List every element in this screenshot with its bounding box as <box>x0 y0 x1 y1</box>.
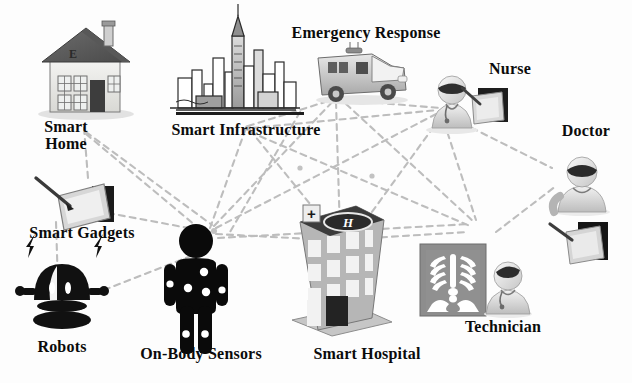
label-on-body-sensors: On-Body Sensors <box>118 345 284 362</box>
label-robots: Robots <box>10 338 114 355</box>
label-doctor: Doctor <box>540 122 632 139</box>
city-skyline-icon <box>170 4 304 115</box>
tablet-stylus-icon <box>36 178 114 230</box>
label-smart-home: Smart Home <box>18 118 114 153</box>
label-smart-infrastructure: Smart Infrastructure <box>148 121 344 138</box>
body-sensor-icon <box>164 224 228 354</box>
label-emergency-response: Emergency Response <box>268 24 464 41</box>
house-door-letter: E <box>69 47 77 61</box>
hospital-helipad-letter: H <box>342 215 354 230</box>
label-nurse: Nurse <box>468 60 552 77</box>
diagram-canvas: E <box>0 0 632 383</box>
nurse-icon <box>426 76 508 134</box>
ambulance-icon <box>316 42 408 105</box>
label-technician: Technician <box>440 318 566 335</box>
house-icon: E <box>38 21 134 120</box>
doctor-icon <box>550 157 610 264</box>
robot-icon <box>15 234 109 329</box>
label-smart-gadgets: Smart Gadgets <box>6 224 158 241</box>
label-smart-hospital: Smart Hospital <box>292 345 442 362</box>
xray-technician-icon <box>420 244 532 318</box>
hospital-cross-symbol: + <box>307 205 316 222</box>
hospital-icon: H + <box>292 205 392 336</box>
